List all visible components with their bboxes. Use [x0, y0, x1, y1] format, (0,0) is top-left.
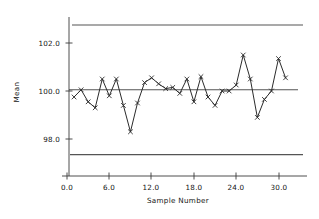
x-tick-label-12: 12.0 — [143, 183, 160, 192]
y-tick-label-98: 98.0 — [43, 135, 60, 144]
x-tick-label-6: 6.0 — [103, 183, 115, 192]
x-tick-label-30: 30.0 — [271, 183, 288, 192]
chart-canvas: 102.0 100.0 98.0 0.0 6.0 12.0 18.0 24.0 … — [0, 0, 319, 219]
y-tick-label-100: 100.0 — [38, 87, 60, 96]
x-tick-label-18: 18.0 — [186, 183, 203, 192]
x-tick-label-0: 0.0 — [61, 183, 73, 192]
x-axis-title: Sample Number — [147, 196, 209, 205]
y-tick-label-102: 102.0 — [38, 39, 60, 48]
control-chart: 102.0 100.0 98.0 0.0 6.0 12.0 18.0 24.0 … — [0, 0, 319, 219]
x-tick-label-24: 24.0 — [228, 183, 245, 192]
y-axis-title: Mean — [12, 82, 21, 103]
